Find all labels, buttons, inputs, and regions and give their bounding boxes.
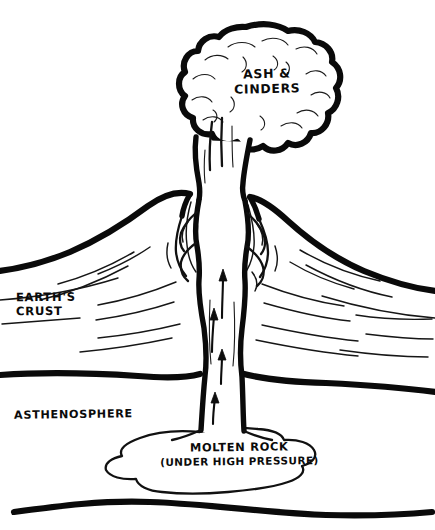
label-earths-crust-line2: Crust <box>16 304 63 318</box>
label-ash-cinders: Ash & Cinders <box>234 65 301 97</box>
label-molten-rock: Molten Rock (Under High Pressure) <box>160 440 319 470</box>
label-molten-rock-line1: Molten Rock <box>190 439 289 454</box>
label-earths-crust-line1: Earth's <box>16 290 76 305</box>
label-ash-cinders-line1: Ash & <box>243 65 291 81</box>
label-molten-rock-line2: (Under High Pressure) <box>160 454 319 468</box>
lower-mantle-boundary <box>14 502 432 516</box>
volcano-diagram: Ash & Cinders Earth's Crust Asthenospher… <box>0 0 435 530</box>
magma-conduit <box>172 200 272 440</box>
label-asthenosphere: Asthenosphere <box>14 407 133 422</box>
label-ash-cinders-line2: Cinders <box>234 80 301 97</box>
label-earths-crust: Earth's Crust <box>16 290 76 319</box>
